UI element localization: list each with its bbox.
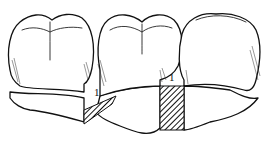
tooth-left-crown: [8, 14, 93, 92]
tooth-right-crown: [179, 14, 260, 91]
gingiva: [10, 92, 84, 122]
interproximal-space-right: [160, 86, 184, 130]
label-space-right: 1: [169, 71, 175, 83]
gingiva-right: [184, 86, 258, 130]
label-space-left: 1: [94, 86, 100, 98]
dental-diagram: 1 1: [0, 0, 268, 146]
